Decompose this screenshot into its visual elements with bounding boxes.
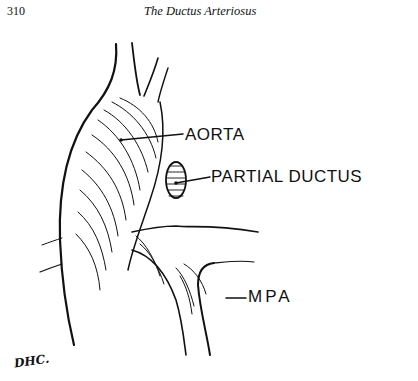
anatomical-illustration [0, 0, 418, 381]
mpa-label: MPA [248, 287, 293, 307]
partial-ductus-label: PARTIAL DUCTUS [211, 167, 362, 187]
aorta-label: AORTA [185, 125, 245, 145]
